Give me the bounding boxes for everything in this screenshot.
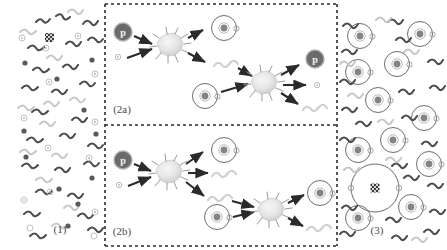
panel-2b: p (2b) [113, 138, 335, 239]
photon-out-2a-2 [303, 105, 327, 111]
proton-out-2a: p [306, 50, 324, 68]
panel-2a-label: (2a) [113, 103, 131, 116]
electron-out-2a [314, 82, 319, 87]
arrows-out-2b-1 [186, 152, 208, 196]
atom-out-2a-1 [212, 16, 240, 41]
electron-in-2a [115, 54, 120, 59]
figure-canvas: (1) p [0, 0, 447, 250]
arrows-in-2a [127, 36, 152, 58]
proton-label: p [120, 27, 126, 38]
panel-3-atoms [346, 22, 445, 231]
diagram-svg: (1) p [0, 0, 447, 250]
heavy-nucleus-icon [45, 33, 54, 42]
photon-out-2b-2 [208, 195, 232, 201]
panel-3-label: (3) [371, 224, 384, 237]
panel-1: (1) [18, 10, 103, 240]
panel-2a: p p (2a) [113, 16, 327, 117]
photon-out-2a-1 [214, 61, 238, 67]
arrows-out-2b-2 [288, 195, 304, 226]
arrows-out-2a-2 [281, 65, 306, 104]
arrows-in-2b-2 [232, 201, 254, 217]
atom-out-2b-1 [212, 138, 240, 163]
atom-in-2b-2 [205, 205, 233, 230]
burst-1-2a [150, 27, 191, 63]
arrows-in-2a-2 [221, 68, 252, 92]
photon-out-2b-1 [212, 171, 236, 177]
burst-2-2a [244, 65, 285, 101]
panel-3: (3) [340, 18, 445, 243]
proton-in-2b: p [114, 151, 132, 169]
proton-label: p [312, 54, 318, 65]
atom-out-2b-2 [308, 181, 336, 206]
arrows-in-2b [128, 164, 151, 186]
panel-1-particles [19, 33, 99, 239]
arrows-out-2a-1 [188, 30, 205, 62]
panel-2b-label: (2b) [113, 225, 132, 238]
panel-1-waves [18, 10, 103, 239]
electron-in-2b [116, 182, 121, 187]
burst-2-2b [251, 192, 292, 228]
proton-in-2a: p [114, 23, 132, 41]
atom-in-2a-2 [193, 84, 221, 109]
panel-1-label: (1) [54, 223, 67, 236]
proton-label: p [120, 155, 126, 166]
burst-1-2b [149, 154, 190, 190]
photon-out-2b-3 [307, 225, 331, 231]
